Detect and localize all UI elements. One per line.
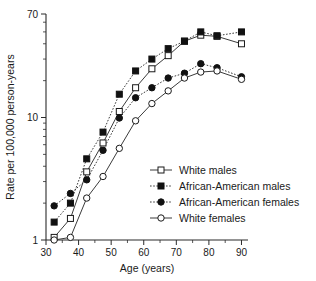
y-tick-label: 1 <box>32 235 38 246</box>
data-point-1 <box>214 33 220 39</box>
x-tick-label: 70 <box>171 247 183 258</box>
data-point-1 <box>133 68 139 74</box>
rate-by-age-line-chart: 11070 30405060708090 Age (years) Rate pe… <box>0 0 316 281</box>
data-point-2 <box>165 75 171 81</box>
legend-marker-2 <box>158 199 164 205</box>
x-axis-major-ticks <box>46 240 241 245</box>
data-point-3 <box>149 100 155 106</box>
legend-item-2: African-American females <box>150 196 299 208</box>
data-point-1 <box>238 29 244 35</box>
legend-label-3: White females <box>179 212 246 224</box>
chart-legend: White malesAfrican-American malesAfrican… <box>150 164 299 224</box>
y-axis-tick-labels: 11070 <box>27 9 39 246</box>
data-point-3 <box>165 88 171 94</box>
data-point-0 <box>238 41 244 47</box>
x-axis-title: Age (years) <box>120 262 174 274</box>
data-point-1 <box>116 91 122 97</box>
x-tick-label: 80 <box>203 247 215 258</box>
data-point-1 <box>165 46 171 52</box>
data-point-0 <box>67 215 73 221</box>
legend-label-0: White males <box>179 164 237 176</box>
data-point-2 <box>51 203 57 209</box>
x-axis-tick-labels: 30405060708090 <box>40 247 247 258</box>
data-point-2 <box>132 95 138 101</box>
x-tick-label: 30 <box>40 247 52 258</box>
y-axis-title: Rate per 100,000 person-years <box>4 54 16 199</box>
data-point-3 <box>51 237 57 243</box>
x-tick-label: 40 <box>73 247 85 258</box>
data-point-2 <box>84 177 90 183</box>
data-point-3 <box>116 145 122 151</box>
data-point-3 <box>181 75 187 81</box>
legend-item-3: White females <box>150 212 246 224</box>
data-point-3 <box>238 76 244 82</box>
data-point-3 <box>214 68 220 74</box>
data-point-1 <box>51 219 57 225</box>
legend-label-1: African-American males <box>179 180 290 192</box>
chart-figure: 11070 30405060708090 Age (years) Rate pe… <box>0 0 316 281</box>
data-point-2 <box>100 147 106 153</box>
legend-marker-1 <box>158 183 164 189</box>
data-point-0 <box>100 140 106 146</box>
data-point-0 <box>84 169 90 175</box>
data-point-3 <box>100 173 106 179</box>
data-point-2 <box>67 190 73 196</box>
data-point-3 <box>67 234 73 240</box>
series-lines <box>54 32 241 240</box>
legend-marker-0 <box>158 167 164 173</box>
legend-marker-3 <box>158 215 164 221</box>
data-point-1 <box>100 129 106 135</box>
legend-item-1: African-American males <box>150 180 290 192</box>
data-point-2 <box>116 115 122 121</box>
data-point-2 <box>198 61 204 67</box>
data-point-1 <box>149 56 155 62</box>
x-tick-label: 60 <box>138 247 150 258</box>
data-point-0 <box>165 53 171 59</box>
y-axis-major-ticks <box>41 14 46 240</box>
data-point-2 <box>149 85 155 91</box>
data-point-0 <box>149 66 155 72</box>
series-line-1 <box>54 32 241 222</box>
data-point-1 <box>198 29 204 35</box>
data-point-3 <box>198 69 204 75</box>
y-tick-label: 10 <box>27 112 39 123</box>
data-point-0 <box>133 85 139 91</box>
data-point-0 <box>116 108 122 114</box>
x-tick-label: 90 <box>236 247 248 258</box>
legend-item-0: White males <box>150 164 237 176</box>
data-point-1 <box>84 156 90 162</box>
y-tick-label: 70 <box>27 9 39 20</box>
legend-label-2: African-American females <box>179 196 299 208</box>
data-point-1 <box>181 38 187 44</box>
x-tick-label: 50 <box>106 247 118 258</box>
data-point-1 <box>67 200 73 206</box>
data-point-3 <box>84 195 90 201</box>
data-point-3 <box>132 118 138 124</box>
